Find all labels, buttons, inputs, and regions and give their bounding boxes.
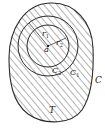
label-t: T: [49, 105, 56, 115]
label-c: C: [95, 75, 102, 85]
label-a: a: [44, 45, 49, 54]
diagram-canvas: r1 r2 a C2 C1 C T: [0, 0, 105, 131]
